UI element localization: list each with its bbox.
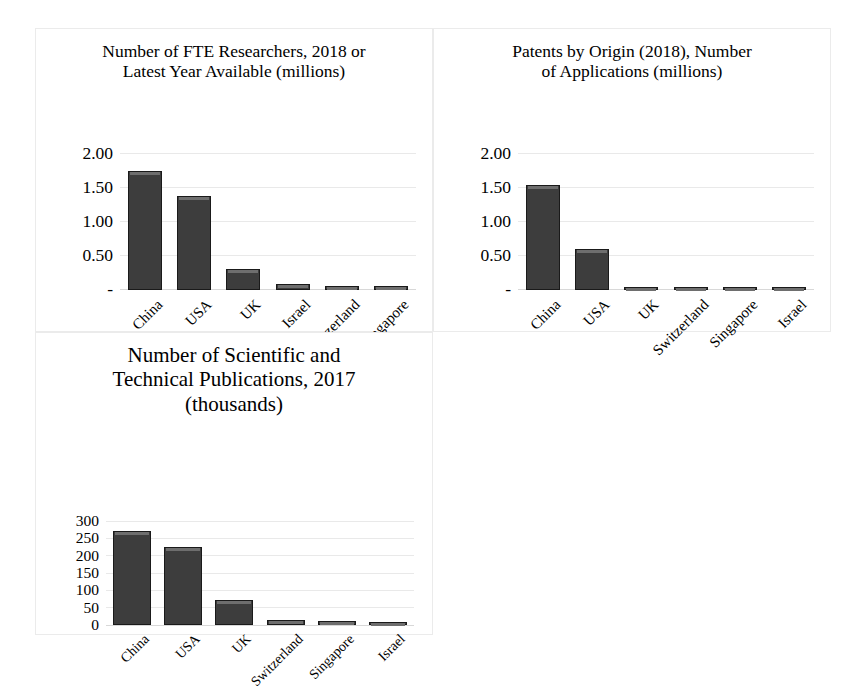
bar-uk [215,600,253,625]
x-axis-tick-label-text: China [118,632,152,666]
x-axis-tick-label-text: Singapore [707,297,761,351]
chart-panel-fte-researchers: Number of FTE Researchers, 2018 or Lates… [35,28,433,332]
bar-singapore [374,286,408,289]
axis-baseline [106,625,414,626]
x-axis-tick-label-text: Switzerland [248,632,305,689]
bar-switzerland [267,620,305,626]
x-axis-tick-label: UK [230,632,254,656]
bar-israel [276,284,310,289]
x-axis-tick-label-text: China [527,297,563,333]
x-axis-tick-label: Singapore [707,297,761,351]
y-axis-tick-label: 250 [76,531,99,547]
plot-area-scientific-publications: 050100150200250300ChinaUSAUKSwitzerlandS… [106,521,414,625]
bar-singapore [318,621,356,625]
x-axis-tick-label: China [118,632,152,666]
y-axis-tick-label: - [107,281,113,299]
x-axis-tick-label-text: Israel [279,297,313,331]
x-axis-tick-label: China [129,297,165,333]
y-axis-tick-label: 1.50 [82,179,113,197]
y-axis-tick-label: 0.50 [480,247,511,265]
y-axis-tick-label: 50 [84,600,100,616]
chart-title-scientific-publications: Number of Scientific and Technical Publi… [70,343,398,416]
y-axis-tick-label: 0 [91,617,99,633]
y-axis-tick-label: 0.50 [82,247,113,265]
plot-area-fte-researchers: -0.501.001.502.00ChinaUSAUKIsraelSwitzer… [120,154,416,290]
y-axis-tick-label: 300 [76,513,99,529]
bar-usa [177,196,211,289]
chart-panel-patents-by-origin: Patents by Origin (2018), Number of Appl… [433,28,831,332]
bar-israel [369,622,407,625]
x-axis-tick-label: Switzerland [248,632,305,689]
gridline [106,590,414,591]
y-axis-tick-label: 1.00 [480,213,511,231]
chart-title-fte-researchers: Number of FTE Researchers, 2018 or Lates… [62,41,406,82]
gridline [106,555,414,556]
y-axis-tick-label: - [505,281,511,299]
x-axis-tick-label-text: USA [173,632,203,662]
bar-singapore [723,287,757,290]
bar-usa [164,547,202,625]
x-axis-tick-label: USA [173,632,203,662]
plot-area-patents-by-origin: -0.501.001.502.00ChinaUSAUKSwitzerlandSi… [518,154,814,290]
gridline [120,255,416,256]
gridline [120,153,416,154]
gridline [106,607,414,608]
x-axis-tick-label: Singapore [307,632,357,682]
gridline [106,573,414,574]
gridline [106,538,414,539]
x-axis-tick-label: UK [636,297,662,323]
bar-switzerland [325,286,359,289]
bar-uk [624,287,658,290]
chart-title-patents-by-origin: Patents by Origin (2018), Number of Appl… [460,41,804,82]
gridline [120,221,416,222]
bar-usa [575,249,609,290]
gridline [518,255,814,256]
bar-china [113,531,151,625]
gridline [518,187,814,188]
y-axis-tick-label: 2.00 [480,145,511,163]
bar-china [526,185,560,290]
x-axis-tick-label: Israel [376,632,408,664]
x-axis-tick-label-text: UK [238,297,264,323]
x-axis-tick-label: UK [238,297,264,323]
gridline [518,221,814,222]
gridline [106,521,414,522]
x-axis-tick-label-text: China [129,297,165,333]
bar-israel [772,287,806,290]
y-axis-tick-label: 1.00 [82,213,113,231]
bar-switzerland [674,287,708,290]
gridline [518,153,814,154]
x-axis-tick-label: China [527,297,563,333]
x-axis-tick-label-text: UK [230,632,254,656]
x-axis-tick-label-text: Israel [776,297,810,331]
bar-china [128,171,162,289]
x-axis-tick-label: Israel [776,297,810,331]
x-axis-tick-label: Israel [279,297,313,331]
x-axis-tick-label: USA [581,297,613,329]
axis-baseline [120,289,416,290]
gridline [120,187,416,188]
y-axis-tick-label: 2.00 [82,145,113,163]
axis-baseline [518,289,814,290]
x-axis-tick-label-text: USA [183,297,215,329]
bar-uk [226,269,260,289]
y-axis-tick-label: 150 [76,565,99,581]
chart-panel-scientific-publications: Number of Scientific and Technical Publi… [35,332,433,635]
x-axis-tick-label-text: UK [636,297,662,323]
x-axis-tick-label-text: USA [581,297,613,329]
y-axis-tick-label: 1.50 [480,179,511,197]
y-axis-tick-label: 100 [76,583,99,599]
x-axis-tick-label-text: Singapore [307,632,357,682]
x-axis-tick-label-text: Israel [376,632,408,664]
y-axis-tick-label: 200 [76,548,99,564]
x-axis-tick-label: USA [183,297,215,329]
